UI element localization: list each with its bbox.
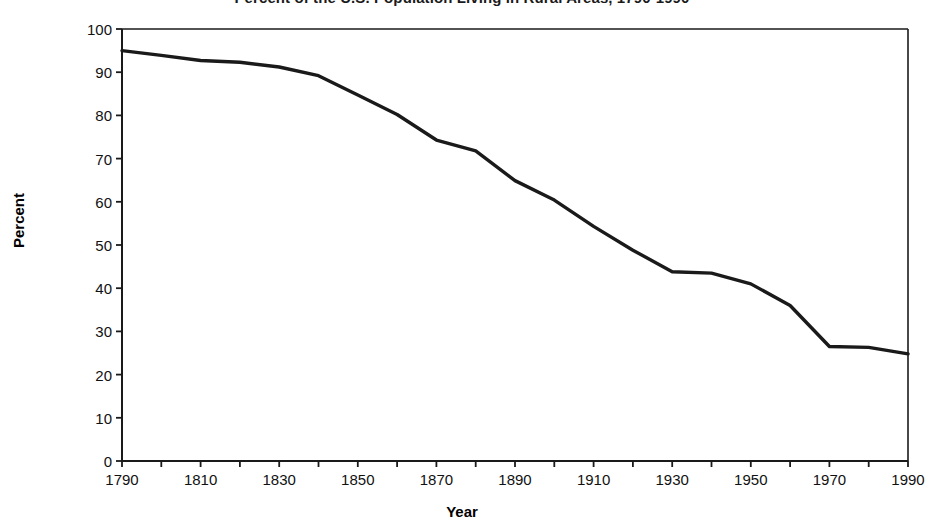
plot-frame <box>122 29 908 461</box>
x-axis-ticks <box>122 461 908 467</box>
data-series-line <box>122 51 908 354</box>
